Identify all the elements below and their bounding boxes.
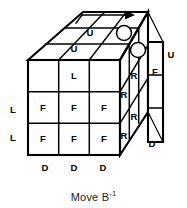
- caption-move-text: Move B: [71, 191, 110, 203]
- back-slice-label-u: U: [168, 49, 175, 60]
- front-cell-r2c0: F: [40, 133, 46, 144]
- right-face-label-r-4: R: [121, 130, 128, 141]
- figure-caption: Move B-1: [0, 189, 187, 203]
- back-slice-connector-top: [148, 12, 163, 42]
- cube-diagram: U U L F F F F F F R R R R U F D L L D D …: [0, 0, 187, 208]
- top-marker-circle-back: [117, 26, 132, 41]
- right-face-label-r-2: R: [121, 89, 128, 100]
- front-cell-r2c2: F: [101, 133, 107, 144]
- cube-move-figure: U U L F F F F F F R R R R U F D L L D D …: [0, 0, 187, 208]
- bottom-label-d-3: D: [100, 162, 107, 173]
- right-face-label-r-1: R: [131, 70, 138, 81]
- left-label-l-2: L: [10, 132, 16, 143]
- top-marker-circle-front: [131, 43, 146, 58]
- bottom-label-d-1: D: [42, 162, 49, 173]
- bottom-label-d-2: D: [71, 162, 78, 173]
- back-slice-label-f: F: [152, 66, 158, 77]
- back-slice-label-d: D: [149, 138, 156, 149]
- left-label-l-1: L: [10, 104, 16, 115]
- top-face-label-u-1: U: [87, 27, 94, 38]
- front-cell-r1c1: F: [71, 102, 77, 113]
- right-face-label-r-3: R: [131, 111, 138, 122]
- front-cell-r1c0: F: [40, 102, 46, 113]
- caption-exponent: -1: [109, 189, 116, 198]
- top-face-label-u-2: U: [71, 43, 78, 54]
- front-cell-r2c1: F: [71, 133, 77, 144]
- front-cell-r1c2: F: [101, 102, 107, 113]
- front-cell-r0c1: L: [71, 70, 77, 81]
